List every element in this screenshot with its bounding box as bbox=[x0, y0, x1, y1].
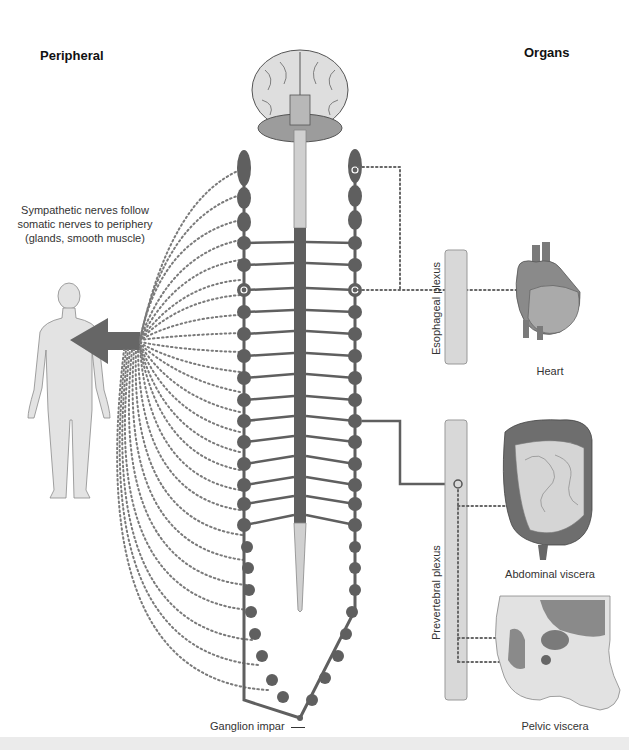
pelvic-viscera-label: Pelvic viscera bbox=[510, 720, 600, 732]
sympathetic-note-line2: somatic nerves to periphery bbox=[14, 217, 156, 231]
prevertebral-plexus-label: Prevertebral plexus bbox=[430, 545, 442, 640]
sympathetic-note-line3: (glands, smooth muscle) bbox=[14, 231, 156, 245]
sympathetic-note: Sympathetic nerves follow somatic nerves… bbox=[14, 203, 156, 245]
abdominal-viscera-label: Abdominal viscera bbox=[495, 568, 605, 580]
sympathetic-note-line1: Sympathetic nerves follow bbox=[14, 203, 156, 217]
ganglion-impar-leader bbox=[291, 727, 305, 728]
esophageal-plexus-bar bbox=[445, 250, 467, 364]
prevertebral-plexus-bar bbox=[445, 420, 467, 700]
left-sympathetic-chain bbox=[237, 150, 300, 718]
spinal-cord bbox=[294, 130, 306, 612]
ganglion-impar-label: Ganglion impar bbox=[210, 720, 305, 732]
abdominal-viscera-illustration bbox=[503, 420, 592, 560]
human-body-figure bbox=[28, 283, 110, 498]
peripheral-heading: Peripheral bbox=[40, 48, 104, 63]
pelvic-viscera-illustration bbox=[495, 596, 620, 710]
ganglion-impar-text: Ganglion impar bbox=[210, 720, 285, 732]
organs-heading: Organs bbox=[524, 45, 570, 60]
heart-illustration bbox=[516, 242, 580, 340]
brain-illustration bbox=[252, 50, 348, 142]
splanchnic-nerve-line bbox=[362, 421, 452, 484]
esophageal-plexus-label: Esophageal plexus bbox=[430, 262, 442, 355]
heart-label: Heart bbox=[530, 365, 570, 377]
